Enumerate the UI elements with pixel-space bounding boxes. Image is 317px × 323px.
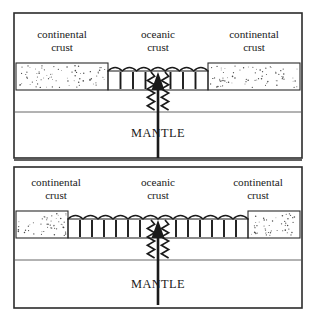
- stipple-dot: [74, 75, 75, 76]
- stipple-dot: [69, 85, 70, 86]
- stipple-dot: [261, 78, 263, 80]
- stipple-dot: [225, 68, 226, 69]
- stipple-dot: [265, 85, 266, 86]
- stipple-dot: [28, 230, 29, 231]
- stipple-dot: [293, 81, 294, 82]
- stipple-dot: [51, 220, 52, 221]
- stipple-dot: [46, 219, 47, 220]
- stipple-dot: [42, 218, 43, 219]
- stipple-dot: [256, 225, 257, 226]
- stipple-dot: [60, 218, 62, 220]
- stipple-dot: [232, 76, 234, 78]
- stipple-dot: [219, 80, 220, 81]
- label-mantle-top: MANTLE: [131, 126, 185, 140]
- stipple-dot: [58, 221, 59, 222]
- stipple-dot: [254, 80, 255, 81]
- stipple-dot: [29, 224, 30, 225]
- stipple-dot: [266, 234, 267, 235]
- label-mantle-bottom: MANTLE: [131, 277, 185, 291]
- stipple-dot: [280, 70, 281, 71]
- stipple-dot: [104, 79, 105, 80]
- label-oceanic-crust-line1: oceanic: [141, 28, 175, 40]
- stipple-dot: [275, 72, 277, 74]
- stipple-dot: [262, 71, 263, 72]
- stipple-dot: [102, 77, 103, 78]
- stipple-dot: [285, 229, 287, 231]
- stipple-dot: [214, 77, 215, 78]
- stipple-dot: [290, 234, 291, 235]
- stipple-dot: [30, 67, 31, 68]
- stipple-dot: [266, 232, 267, 233]
- stipple-dot: [64, 222, 65, 223]
- stipple-dot: [292, 77, 293, 78]
- stipple-dot: [254, 225, 255, 226]
- stipple-dot: [65, 231, 66, 232]
- stipple-dot: [233, 72, 234, 73]
- stipple-dot: [255, 222, 256, 223]
- seafloor-spreading-diagram: continental crust oceanic crust continen…: [0, 0, 317, 323]
- stipple-dot: [247, 79, 249, 81]
- stipple-dot: [245, 81, 246, 82]
- stipple-dot: [46, 87, 47, 88]
- stipple-dot: [52, 86, 53, 87]
- stipple-dot: [43, 231, 44, 232]
- stipple-dot: [95, 82, 96, 83]
- stipple-dot: [259, 69, 261, 71]
- stipple-dot: [227, 77, 228, 78]
- stipple-dot: [285, 225, 286, 226]
- stipple-dot: [56, 228, 57, 229]
- stipple-dot: [222, 78, 223, 79]
- stipple-dot: [261, 75, 262, 76]
- stipple-dot: [283, 73, 285, 75]
- stipple-dot: [255, 216, 257, 218]
- stipple-dot: [293, 87, 294, 88]
- stipple-dot: [266, 219, 267, 220]
- stipple-dot: [54, 228, 55, 229]
- stipple-dot: [277, 80, 278, 81]
- stipple-dot: [36, 80, 37, 81]
- stipple-dot: [282, 76, 284, 78]
- label-left-continental-crust-line2: crust: [51, 41, 74, 53]
- stipple-dot: [259, 222, 260, 223]
- stipple-dot: [21, 67, 22, 68]
- stipple-dot: [289, 213, 290, 214]
- stipple-dot: [56, 213, 58, 215]
- stipple-dot: [46, 75, 47, 76]
- stipple-dot: [37, 77, 38, 78]
- stipple-dot: [24, 232, 25, 233]
- stipple-dot: [223, 72, 224, 73]
- stipple-dot: [18, 231, 20, 233]
- stipple-dot: [255, 232, 256, 233]
- stipple-dot: [221, 69, 222, 70]
- label-left-continental-crust-line2-b: crust: [45, 189, 68, 201]
- stipple-dot: [266, 83, 267, 84]
- stipple-dot: [82, 80, 84, 82]
- stipple-dot: [222, 85, 223, 86]
- stipple-dot: [98, 73, 99, 74]
- stipple-dot: [271, 230, 272, 231]
- stipple-dot: [270, 232, 271, 233]
- stipple-dot: [221, 80, 222, 81]
- stipple-dot: [44, 216, 45, 217]
- stipple-dot: [83, 73, 84, 74]
- stipple-dot: [239, 69, 240, 70]
- stipple-dot: [64, 235, 65, 236]
- stipple-dot: [93, 84, 94, 85]
- stipple-dot: [65, 213, 66, 214]
- stipple-dot: [91, 78, 92, 79]
- stipple-dot: [79, 85, 80, 86]
- stipple-dot: [78, 81, 79, 82]
- stipple-dot: [264, 225, 265, 226]
- stipple-dot: [251, 234, 252, 235]
- stipple-dot: [226, 82, 227, 83]
- label-right-continental-crust-line2: crust: [243, 41, 266, 53]
- stipple-dot: [56, 218, 57, 219]
- stipple-dot: [212, 78, 213, 79]
- stipple-dot: [286, 214, 287, 215]
- stipple-dot: [293, 222, 294, 223]
- stipple-dot: [287, 225, 288, 226]
- stipple-dot: [263, 217, 264, 218]
- stipple-dot: [28, 225, 29, 226]
- label-right-continental-crust-line1-b: continental: [233, 176, 283, 188]
- stipple-dot: [27, 65, 28, 66]
